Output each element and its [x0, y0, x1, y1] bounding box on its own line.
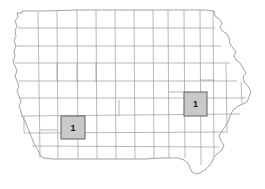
- highlighted-county-east-label: 1: [193, 99, 198, 109]
- map-canvas: 1 1: [0, 0, 265, 189]
- iowa-county-map: 1 1: [0, 0, 265, 189]
- highlighted-county-east[interactable]: 1: [184, 92, 207, 116]
- highlighted-county-west[interactable]: 1: [61, 116, 85, 139]
- iowa-state-outline: [13, 10, 251, 174]
- highlighted-county-west-label: 1: [70, 123, 75, 133]
